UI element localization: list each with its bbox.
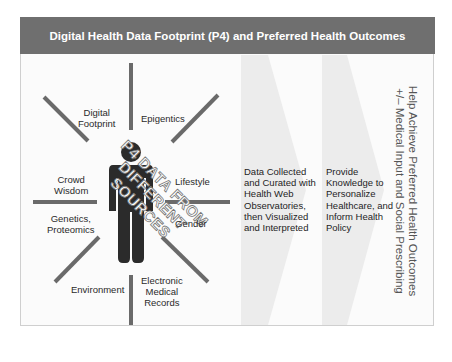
label-crowd-wisdom: Crowd Wisdom [54,174,88,196]
label-gender: Gender [175,218,207,229]
outcome-line-1: Help Achieve Preferred Health Outcomes [406,78,419,303]
step-collect-curate: Data Collected and Curated with Health W… [244,166,316,233]
label-lifestyle: Lifestyle [175,176,210,187]
label-electronic-medical-records: Electronic Medical Records [141,275,183,308]
outcome-line-2: +/– Medical Input and Social Prescribing [393,78,406,303]
label-epigenetics: Epigentics [141,113,185,124]
outcome-vertical-text: Help Achieve Preferred Health Outcomes +… [380,78,432,303]
label-digital-footprint: Digital Footprint [78,107,116,129]
spoke-bottom-left [55,237,99,282]
label-environment: Environment [71,284,124,295]
label-genetics-proteomics: Genetics, Proteomics [47,213,95,235]
